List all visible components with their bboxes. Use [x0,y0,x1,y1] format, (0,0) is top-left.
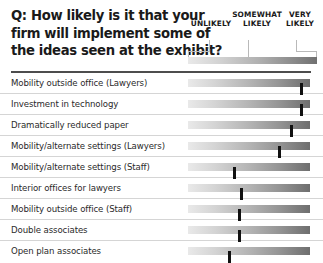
table-row: Dramatically reduced paper [0,115,323,136]
row-label: Mobility outside office (Staff) [11,199,132,219]
row-label: Double associates [11,220,87,240]
title-line-1: Q: How likely is it that your [11,7,186,25]
scale-gradient-bar [188,57,317,64]
row-label: Interior offices for lawyers [11,178,121,198]
table-row: Mobility outside office (Lawyers) [0,73,323,94]
row-label: Mobility/alternate settings (Lawyers) [11,136,165,156]
table-row: Mobility/alternate settings (Staff) [0,157,323,178]
title-line-2: firm will implement some of [11,25,186,43]
row-label: Open plan associates [11,241,101,261]
row-gradient-track [188,205,310,213]
row-marker [228,251,231,263]
page-title: Q: How likely is it that your firm will … [11,7,186,60]
scale-tick-unlikely-arm [188,51,210,52]
table-row: Investment in technology [0,94,323,115]
table-row: Mobility outside office (Staff) [0,199,323,220]
row-gradient-track [188,142,310,150]
row-gradient-track [188,121,310,129]
scale-tick-somewhat-stem [248,40,249,57]
table-row: Double associates [0,220,323,241]
table-row: Interior offices for lawyers [0,178,323,199]
chart-rows: Mobility outside office (Lawyers) Invest… [0,73,323,261]
row-gradient-track [188,163,310,171]
scale-label-somewhat-line-2: LIKELY [230,20,284,29]
row-label: Mobility/alternate settings (Staff) [11,157,150,177]
row-gradient-track [188,226,310,234]
scale-label-somewhat-likely: SOMEWHAT LIKELY [230,11,284,28]
table-row: Open plan associates [0,241,323,261]
row-label: Dramatically reduced paper [11,115,129,135]
row-gradient-track [188,247,310,255]
row-gradient-track [188,100,310,108]
scale-label-very-line-2: LIKELY [280,20,320,29]
chart-header: Q: How likely is it that your firm will … [0,0,323,70]
row-gradient-track [188,184,310,192]
scale-tick-very-arm [296,51,317,52]
title-line-3: the ideas seen at the exhibit? [11,42,186,60]
row-label: Mobility outside office (Lawyers) [11,73,147,93]
scale-label-very-likely: VERY LIKELY [280,11,320,28]
scale-legend: UNLIKELY SOMEWHAT LIKELY VERY LIKELY [186,0,319,70]
row-label: Investment in technology [11,94,118,114]
row-gradient-track [188,79,310,87]
table-row: Mobility/alternate settings (Lawyers) [0,136,323,157]
